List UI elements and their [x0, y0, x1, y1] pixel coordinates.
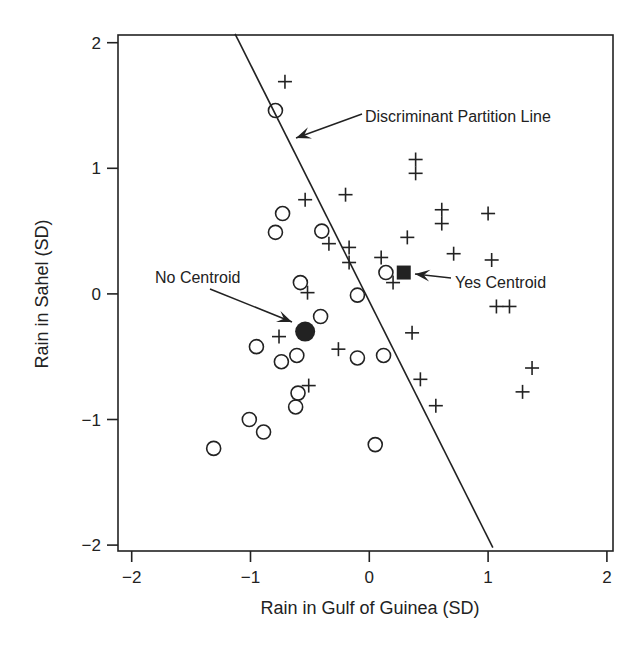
circle-marker: [315, 224, 329, 238]
plus-marker: [435, 203, 449, 217]
y-axis-ticks: −2−1012: [82, 34, 118, 555]
y-tick-label: 2: [92, 34, 101, 53]
annotation-arrows: [210, 114, 451, 322]
circle-marker: [314, 310, 328, 324]
y-tick-label: 1: [92, 159, 101, 178]
x-axis-label: Rain in Gulf of Guinea (SD): [260, 598, 479, 618]
arrow-to-no-centroid: [210, 289, 292, 322]
x-tick-label: −1: [241, 568, 260, 587]
circle-marker: [368, 438, 382, 452]
plus-marker: [429, 399, 443, 413]
x-axis-ticks: −2−1012: [122, 551, 612, 587]
plus-marker: [400, 230, 414, 244]
plus-marker: [322, 237, 336, 251]
circle-marker: [249, 340, 263, 354]
circle-marker: [350, 351, 364, 365]
circle-marker: [293, 276, 307, 290]
plus-marker: [409, 153, 423, 167]
x-tick-label: 0: [365, 568, 374, 587]
circle-marker: [379, 266, 393, 280]
plus-marker: [435, 217, 449, 231]
data-points: [207, 75, 539, 456]
no-centroid-marker: [295, 322, 315, 342]
plus-marker: [489, 299, 503, 313]
y-tick-label: −1: [82, 411, 101, 430]
plus-marker: [331, 342, 345, 356]
plus-marker: [447, 247, 461, 261]
circle-marker: [276, 207, 290, 221]
plus-marker: [413, 372, 427, 386]
arrow-to-yes-centroid: [415, 270, 451, 282]
yes-centroid-marker: [397, 266, 411, 280]
circle-marker: [274, 355, 288, 369]
plus-marker: [502, 299, 516, 313]
circle-marker: [207, 441, 221, 455]
plus-marker: [342, 256, 356, 270]
plus-marker: [516, 385, 530, 399]
circle-marker: [268, 225, 282, 239]
plus-marker: [409, 166, 423, 180]
scatter-chart: −2−1012 −2−1012 Rain in Gulf of Guinea (…: [0, 0, 644, 650]
circle-marker: [290, 348, 304, 362]
circle-marker: [350, 288, 364, 302]
annotation-yes-centroid: Yes Centroid: [455, 274, 546, 291]
plus-marker: [525, 361, 539, 375]
circle-marker: [257, 425, 271, 439]
y-axis-label: Rain in Sahel (SD): [32, 219, 52, 368]
plus-marker: [298, 193, 312, 207]
plus-marker: [405, 326, 419, 340]
plus-marker: [374, 250, 388, 264]
x-tick-label: 1: [483, 568, 492, 587]
circle-marker: [291, 386, 305, 400]
x-tick-label: 2: [602, 568, 611, 587]
circle-marker: [377, 348, 391, 362]
plus-marker: [339, 188, 353, 202]
arrow-to-partition-line: [296, 114, 362, 138]
circle-marker: [289, 400, 303, 414]
y-tick-label: −2: [82, 536, 101, 555]
y-tick-label: 0: [92, 285, 101, 304]
annotation-no-centroid: No Centroid: [155, 269, 240, 286]
plus-marker: [272, 330, 286, 344]
plus-marker: [278, 75, 292, 89]
circle-marker: [242, 413, 256, 427]
plus-marker: [481, 207, 495, 221]
annotation-partition-line: Discriminant Partition Line: [365, 108, 551, 125]
plus-marker: [301, 286, 315, 300]
x-tick-label: −2: [122, 568, 141, 587]
plus-marker: [485, 253, 499, 267]
